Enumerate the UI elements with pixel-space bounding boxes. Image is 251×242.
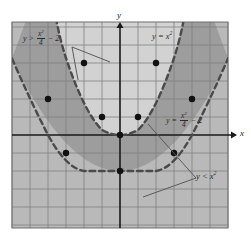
label-region-lower: y < x2 (196, 172, 216, 181)
y-axis-label: y (117, 10, 121, 20)
label-region-upper: y > x2 4 − 2 (23, 30, 59, 46)
label-region-upper-fraction: x2 4 (37, 30, 45, 46)
point-upper-right-1 (135, 114, 141, 120)
label-region-upper-lhs: y > (23, 34, 34, 43)
label-curve-upper: y = x2 (152, 32, 172, 41)
x-axis-label: x (240, 128, 244, 138)
point-upper-left-1 (99, 114, 105, 120)
label-region-upper-tail: − 2 (48, 34, 59, 43)
point-upper-left-2 (81, 60, 87, 66)
point-lower-left-1 (63, 150, 69, 156)
point-vertex-upper (117, 132, 123, 138)
point-lower-right-2 (189, 96, 195, 102)
label-curve-lower: y = x2 4 − 2 (166, 112, 202, 128)
point-vertex-lower (117, 168, 123, 174)
x-axis-arrow (231, 132, 237, 139)
point-upper-right-2 (153, 60, 159, 66)
point-lower-left-2 (45, 96, 51, 102)
label-curve-lower-fraction: x2 4 (180, 112, 188, 128)
figure-container: y > x2 4 − 2 y = x2 y = x2 4 − 2 y < x2 … (0, 0, 251, 242)
